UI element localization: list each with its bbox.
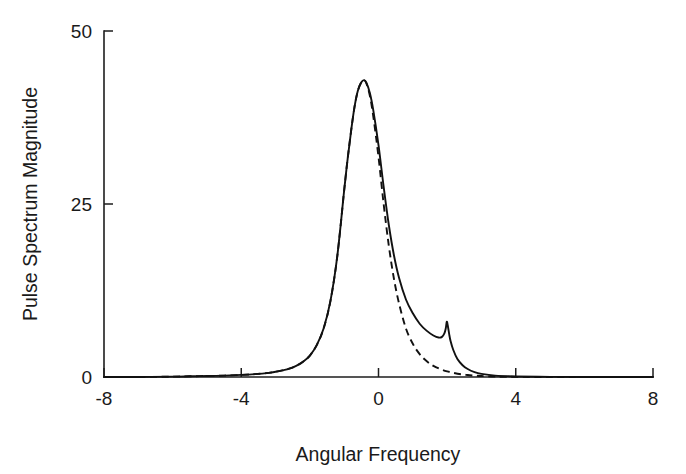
y-axis-title: Pulse Spectrum Magnitude xyxy=(19,87,41,321)
y-tick-label-0: 0 xyxy=(81,367,92,388)
axes-group xyxy=(104,31,653,377)
y-tick-label-2: 50 xyxy=(71,21,92,42)
x-tick-label-0: -8 xyxy=(96,388,113,409)
plot-canvas: 02550 -8-4048 Angular Frequency Pulse Sp… xyxy=(0,0,686,474)
series-group xyxy=(104,80,653,377)
solid-curve xyxy=(104,80,653,377)
x-tick-label-2: 0 xyxy=(373,388,384,409)
y-axis-ticks xyxy=(104,31,113,377)
x-tick-label-4: 8 xyxy=(648,388,659,409)
dashed-curve xyxy=(104,80,653,377)
y-tick-label-1: 25 xyxy=(71,194,92,215)
x-tick-label-3: 4 xyxy=(510,388,521,409)
y-axis-tick-labels: 02550 xyxy=(71,21,92,388)
x-axis-title: Angular Frequency xyxy=(296,443,461,465)
x-tick-label-1: -4 xyxy=(233,388,250,409)
chart-figure: 02550 -8-4048 Angular Frequency Pulse Sp… xyxy=(0,0,686,474)
x-axis-tick-labels: -8-4048 xyxy=(96,388,659,409)
